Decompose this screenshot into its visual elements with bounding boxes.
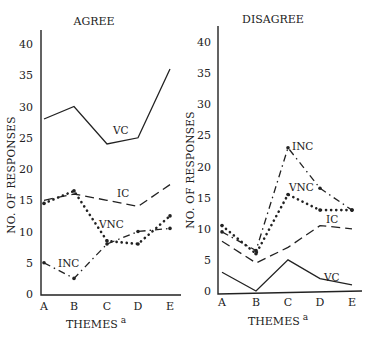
disagree-point-vnc — [286, 193, 290, 197]
agree-x-axis-text: THEMES — [66, 318, 118, 331]
agree-series — [42, 69, 172, 280]
agree-y-ticks: 0510152025303540 — [19, 38, 33, 301]
agree-x-ticks: ABCDE — [39, 300, 174, 313]
agree-axes — [41, 30, 181, 295]
disagree-x-axis-superscript: a — [303, 312, 309, 322]
disagree-y-tick: 20 — [197, 161, 211, 174]
agree-x-tick: D — [134, 300, 143, 313]
agree-series-vc — [44, 69, 170, 144]
disagree-point-vnc — [350, 208, 354, 212]
agree-x-axis-superscript: a — [121, 315, 127, 325]
disagree-y-tick: 15 — [197, 192, 211, 205]
disagree-series-inc — [222, 148, 352, 251]
disagree-y-tick: 5 — [204, 254, 211, 267]
disagree-label-inc: INC — [292, 140, 313, 152]
agree-x-axis-label: THEMESa — [66, 315, 127, 331]
agree-point-inc — [136, 230, 140, 234]
agree-label-vnc: VNC — [98, 218, 124, 230]
agree-label-ic: IC — [117, 187, 129, 199]
disagree-point-inc — [220, 230, 224, 234]
disagree-y-tick: 40 — [197, 36, 211, 49]
agree-x-tick: C — [103, 300, 111, 313]
agree-point-inc — [168, 227, 172, 231]
agree-y-tick: 20 — [19, 163, 33, 176]
disagree-y-ticks: 0510152025303540 — [197, 36, 211, 298]
disagree-label-vnc: VNC — [288, 181, 314, 193]
disagree-x-axis-text: THEMES — [248, 315, 300, 328]
disagree-x-tick: E — [348, 296, 356, 309]
agree-point-vnc — [136, 242, 140, 246]
agree-point-inc — [72, 277, 76, 281]
disagree-x-tick: A — [217, 296, 227, 309]
disagree-series-ic — [222, 226, 352, 263]
disagree-x-tick: D — [316, 296, 325, 309]
disagree-label-ic: IC — [326, 213, 338, 225]
agree-label-inc: INC — [58, 257, 79, 269]
agree-x-tick: E — [166, 300, 174, 313]
agree-panel: AGREE NO. OF RESPONSES 0510152025303540 … — [5, 15, 181, 331]
agree-point-vnc — [72, 189, 76, 193]
disagree-x-ticks: ABCDE — [217, 296, 356, 309]
disagree-axes — [218, 26, 362, 294]
disagree-point-inc — [286, 146, 290, 150]
disagree-panel: DISAGREE NO. OF RESPONSES 05101520253035… — [184, 13, 362, 328]
agree-y-axis-label: NO. OF RESPONSES — [5, 116, 17, 234]
disagree-x-tick: C — [284, 296, 292, 309]
disagree-y-tick: 35 — [197, 67, 211, 80]
disagree-x-tick: B — [252, 296, 260, 309]
agree-point-vnc — [42, 202, 46, 206]
chart-canvas: AGREE NO. OF RESPONSES 0510152025303540 … — [0, 0, 371, 337]
disagree-point-vnc — [318, 208, 322, 212]
agree-y-tick: 25 — [19, 132, 33, 145]
agree-point-inc — [105, 242, 109, 246]
agree-y-tick: 35 — [19, 69, 33, 82]
agree-point-vnc — [105, 239, 109, 243]
disagree-point-vnc — [254, 252, 258, 256]
agree-y-tick: 10 — [19, 226, 33, 239]
agree-x-tick: B — [70, 300, 78, 313]
agree-point-vnc — [168, 214, 172, 218]
agree-y-tick: 0 — [26, 288, 33, 301]
disagree-y-tick: 0 — [204, 285, 211, 298]
agree-y-tick: 40 — [19, 38, 33, 51]
agree-y-tick: 30 — [19, 101, 33, 114]
disagree-y-tick: 25 — [197, 129, 211, 142]
agree-series-inc — [44, 228, 170, 278]
agree-point-inc — [42, 261, 46, 265]
disagree-point-inc — [318, 187, 322, 191]
agree-x-tick: A — [39, 300, 49, 313]
agree-y-tick: 15 — [19, 194, 33, 207]
disagree-label-vc: VC — [323, 271, 340, 283]
disagree-x-axis-label: THEMESa — [248, 312, 309, 328]
disagree-point-vnc — [220, 224, 224, 228]
disagree-y-tick: 10 — [197, 223, 211, 236]
disagree-y-axis-label: NO. OF RESPONSES — [184, 111, 196, 229]
agree-label-vc: VC — [112, 124, 129, 136]
agree-title: AGREE — [72, 15, 114, 28]
disagree-title: DISAGREE — [242, 13, 304, 26]
agree-y-tick: 5 — [26, 257, 33, 270]
disagree-y-tick: 30 — [197, 98, 211, 111]
